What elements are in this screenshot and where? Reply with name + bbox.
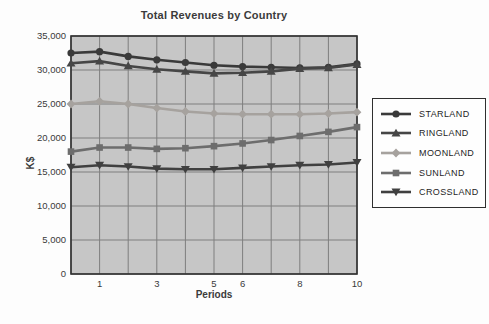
sunland-marker	[68, 148, 75, 155]
legend-item-moonland: MOONLAND	[380, 147, 480, 159]
y-tick-label: 20,000	[37, 132, 66, 143]
y-tick-label: 5,000	[42, 234, 66, 245]
x-axis-title: Periods	[71, 289, 357, 300]
legend-label: STARLAND	[419, 109, 470, 119]
legend-circle-icon	[380, 108, 412, 120]
y-tick-labels: 05,00010,00015,00020,00025,00030,00035,0…	[37, 30, 66, 279]
starland-marker	[125, 53, 132, 60]
legend-item-sunland: SUNLAND	[380, 167, 480, 179]
x-tick-label: 1	[97, 278, 102, 289]
legend-item-crossland: CROSSLAND	[380, 186, 480, 198]
y-tick-label: 15,000	[37, 166, 66, 177]
x-tick-label: 8	[297, 278, 302, 289]
legend-triangle-down-icon	[380, 186, 412, 198]
sunland-marker	[125, 144, 132, 151]
starland-marker	[210, 62, 217, 69]
x-tick-labels: 1356810	[97, 278, 362, 289]
starland-marker	[153, 56, 160, 63]
x-tick-label: 6	[240, 278, 245, 289]
x-tick-label: 3	[154, 278, 159, 289]
legend: STARLANDRINGLANDMOONLANDSUNLANDCROSSLAND	[372, 98, 486, 208]
legend-label: CROSSLAND	[419, 187, 479, 197]
sunland-marker	[182, 145, 189, 152]
y-tick-label: 10,000	[37, 200, 66, 211]
legend-item-ringland: RINGLAND	[380, 127, 480, 139]
sunland-marker	[297, 133, 304, 140]
legend-label: RINGLAND	[419, 128, 469, 138]
legend-item-starland: STARLAND	[380, 108, 480, 120]
legend-label: MOONLAND	[419, 148, 474, 158]
legend-label: SUNLAND	[419, 168, 465, 178]
sunland-marker	[154, 146, 161, 153]
legend-square-icon	[380, 167, 412, 179]
x-tick-label: 10	[352, 278, 363, 289]
starland-marker	[96, 48, 103, 55]
sunland-marker	[96, 144, 103, 151]
legend-diamond-icon	[380, 147, 412, 159]
x-tick-label: 5	[211, 278, 216, 289]
legend-marker	[392, 110, 399, 117]
legend-triangle-up-icon	[380, 127, 412, 139]
starland-marker	[67, 49, 74, 56]
sunland-marker	[325, 129, 332, 136]
sunland-marker	[268, 137, 275, 144]
starland-marker	[182, 59, 189, 66]
sunland-marker	[211, 143, 218, 150]
y-tick-label: 30,000	[37, 64, 66, 75]
y-tick-label: 25,000	[37, 98, 66, 109]
sunland-marker	[239, 140, 246, 147]
legend-marker	[393, 169, 400, 176]
y-tick-label: 0	[61, 268, 66, 279]
chart-container: Total Revenues by Country K$ 135681005,0…	[0, 0, 489, 324]
y-tick-label: 35,000	[37, 30, 66, 41]
legend-marker	[392, 149, 401, 158]
sunland-marker	[354, 124, 361, 131]
